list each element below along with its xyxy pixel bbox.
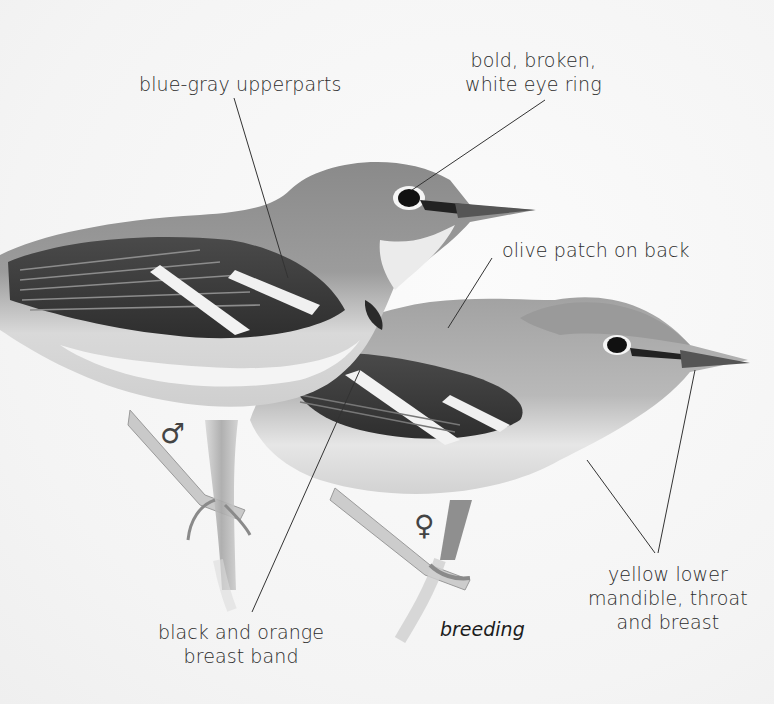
- illustration-canvas: blue-gray upperparts bold, broken, white…: [0, 0, 774, 704]
- label-olive-patch: olive patch on back: [502, 238, 690, 262]
- leader-eye-ring: [412, 100, 545, 190]
- leader-throat: [587, 460, 655, 553]
- male-symbol-icon: ♂: [160, 420, 185, 448]
- branch-male: [128, 410, 250, 610]
- female-symbol-icon: ♀: [414, 512, 435, 540]
- label-breast-band: black and orange breast band: [158, 620, 324, 668]
- label-yellow-mandible-throat-breast: yellow lower mandible, throat and breast: [588, 562, 748, 634]
- caption-breeding: breeding: [440, 618, 525, 640]
- label-blue-gray-upperparts: blue-gray upperparts: [139, 72, 342, 96]
- label-eye-ring: bold, broken, white eye ring: [465, 48, 602, 96]
